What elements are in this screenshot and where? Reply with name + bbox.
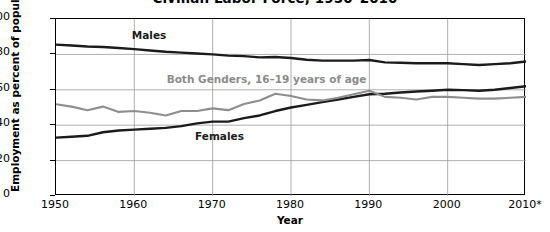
x-tick-label: 1970 bbox=[198, 198, 226, 211]
y-tick-mark bbox=[50, 195, 55, 196]
series-label: Both Genders, 16–19 years of age bbox=[167, 73, 367, 85]
y-axis-label: Employment as percent of population bbox=[9, 0, 21, 192]
series-lines bbox=[56, 19, 526, 196]
x-tick-label: 2000 bbox=[433, 198, 461, 211]
series-label: Males bbox=[132, 29, 167, 41]
x-tick-label: 2010* bbox=[508, 198, 542, 211]
x-tick-label: 1980 bbox=[276, 198, 304, 211]
plot-area bbox=[55, 18, 525, 195]
chart-container: Civilian Labor Force, 1950–2010 Employme… bbox=[0, 0, 550, 232]
x-axis-label: Year bbox=[55, 214, 525, 226]
x-tick-label: 1990 bbox=[354, 198, 382, 211]
x-tick-label: 1960 bbox=[119, 198, 147, 211]
series-label: Females bbox=[195, 130, 244, 142]
chart-title: Civilian Labor Force, 1950–2010 bbox=[0, 0, 550, 5]
x-tick-label: 1950 bbox=[41, 198, 69, 211]
